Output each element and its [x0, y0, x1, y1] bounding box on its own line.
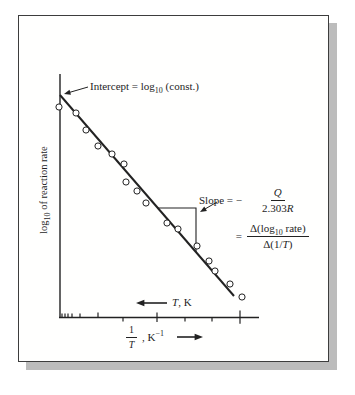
slope-fraction-q-over-2303r: Q 2.303R: [247, 186, 309, 214]
intercept-text-sub: 10: [155, 86, 163, 95]
data-point: [134, 188, 140, 194]
slope-frac2-denominator: Δ(1/T): [263, 237, 292, 251]
x-axis-frac-numerator: 1: [126, 324, 137, 338]
y-axis-label-sub: 10: [43, 212, 52, 220]
intercept-annotation: Intercept = log10 (const.): [90, 80, 199, 93]
data-point: [73, 110, 79, 116]
y-axis-label: log10 of reaction rate: [38, 114, 50, 266]
slope-frac1-numerator: Q: [271, 186, 285, 201]
data-point: [121, 161, 127, 167]
data-point: [239, 294, 245, 300]
y-axis-label-post: of reaction rate: [38, 146, 49, 212]
t-scale-label: T, K: [172, 296, 192, 309]
x-axis-frac-denominator: T: [129, 338, 135, 351]
x-axis-label: 1 T , K−1: [126, 324, 164, 350]
data-point: [95, 143, 101, 149]
data-point: [143, 200, 149, 206]
intercept-text-post: (const.): [163, 80, 199, 92]
slope-annotation: Slope = − Q 2.303R = Δ(log10 rate) Δ(1/T…: [199, 186, 309, 251]
x-axis-unit: , K−1: [142, 331, 164, 344]
data-point: [123, 179, 129, 185]
slope-fraction-delta-ratio: Δ(log10 rate) Δ(1/T): [247, 222, 309, 250]
data-point: [56, 104, 62, 110]
data-point: [83, 127, 89, 133]
slope-frac2-numerator: Δ(log10 rate): [247, 222, 309, 237]
t-scale-unit: , K: [178, 296, 191, 308]
slope-equals-sign: =: [236, 230, 242, 243]
data-point: [227, 281, 233, 287]
data-point: [175, 226, 181, 232]
slope-equation-lhs: Slope = −: [199, 194, 242, 207]
data-point: [109, 151, 115, 157]
y-axis-label-pre: log: [38, 220, 49, 233]
t-scale-arrow-head: [136, 300, 144, 307]
intercept-text-pre: Intercept = log: [90, 80, 155, 92]
slope-frac1-denominator: 2.303R: [262, 201, 293, 215]
x-label-arrow-head: [195, 334, 203, 341]
intercept-arrow-shaft: [69, 87, 88, 93]
intercept-arrow-head: [64, 90, 71, 95]
x-axis-reciprocal-fraction: 1 T: [126, 324, 137, 350]
data-point: [206, 258, 212, 264]
data-point: [212, 268, 218, 274]
data-point: [164, 220, 170, 226]
